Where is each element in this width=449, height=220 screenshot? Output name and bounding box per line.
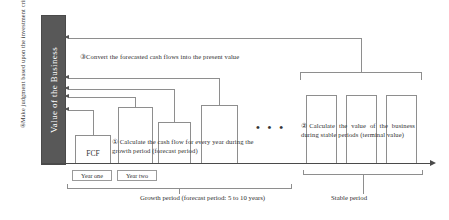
stable-bracket-left-tick [300, 72, 301, 80]
arrow-riser-cf2 [135, 97, 136, 107]
diagram-canvas: ④Make judgment based upon the investment… [0, 0, 449, 220]
note-step-2: ②Calculate the value of the business dur… [301, 121, 415, 139]
arrow-riser-cf3 [174, 89, 175, 122]
arrow-line-cf3 [69, 89, 174, 90]
cashflow-bar-year-one: FCF [75, 135, 111, 163]
note-step-1: ① Calculate the cash flow for every year… [112, 137, 262, 155]
arrowhead-cf1 [64, 107, 69, 111]
arrow-line-cf1 [69, 110, 93, 111]
growth-period-label: Growth period (forecast period: 5 to 10 … [140, 194, 265, 201]
arrow-riser-cf1 [93, 110, 94, 135]
time-axis-arrowhead [430, 160, 436, 166]
stable-bracket-right-tick [421, 72, 422, 80]
growth-period-bracket [67, 184, 292, 194]
arrow-riser-terminal-value [361, 38, 362, 72]
stable-period-label: Stable period [331, 194, 367, 201]
time-axis [41, 163, 433, 164]
arrow-line-cf2 [69, 97, 135, 98]
fcf-label: FCF [76, 149, 110, 158]
arrowhead-terminal-value [64, 35, 69, 39]
arrow-line-terminal-value [69, 38, 361, 39]
value-of-business-column: Value of the Business [41, 15, 66, 165]
year-two-box: Year two [117, 170, 157, 181]
value-of-business-label: Value of the Business [49, 47, 59, 133]
note-step-3: ③Convert the forecasted cash flows into … [80, 52, 250, 61]
judgment-criteria-caption: ④Make judgment based upon the investment… [19, 0, 28, 133]
arrowhead-cf4 [64, 75, 69, 79]
stable-period-bracket [303, 170, 423, 180]
arrow-riser-cf4 [219, 78, 220, 105]
ellipsis-more-years: • • • [256, 121, 286, 133]
arrowhead-cf2 [64, 94, 69, 98]
stable-bracket-top [300, 72, 422, 73]
year-one-box: Year one [72, 170, 112, 181]
arrowhead-cf3 [64, 86, 69, 90]
arrow-line-cf4 [69, 78, 219, 79]
